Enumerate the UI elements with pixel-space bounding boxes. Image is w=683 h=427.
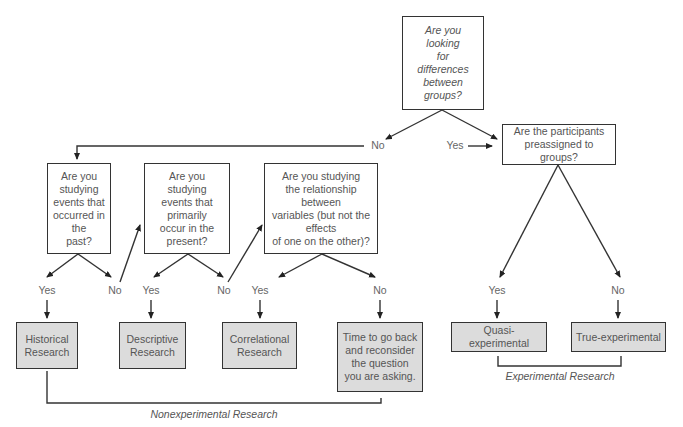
node-text: Historical Research	[25, 333, 70, 359]
edge-label-present-yes: Yes	[142, 284, 159, 296]
edge-label-preassigned-yes: Yes	[488, 284, 505, 296]
edge-label-past-no: No	[108, 284, 121, 296]
edge-label-relationship-no: No	[373, 284, 386, 296]
result-true-experimental: True-experimental	[571, 322, 666, 352]
result-historical-research: Historical Research	[16, 322, 78, 369]
node-text: Quasi-experimental	[456, 324, 542, 350]
node-text: Are you studying the relationship betwee…	[272, 170, 370, 248]
question-participants-preassigned: Are the participants preassigned to grou…	[502, 124, 616, 165]
node-text: Are the participants preassigned to grou…	[507, 125, 611, 164]
result-quasi-experimental: Quasi-experimental	[451, 322, 547, 352]
node-text: Are you studying events that occurred in…	[53, 170, 105, 248]
edge-label-present-no: No	[217, 284, 230, 296]
edge-label-past-yes: Yes	[38, 284, 55, 296]
group-label-experimental: Experimental Research	[505, 370, 614, 382]
node-text: Are you studying events that primarily o…	[160, 170, 214, 248]
group-label-nonexperimental: Nonexperimental Research	[150, 408, 277, 420]
node-text: Time to go back and reconsider the quest…	[343, 331, 417, 383]
question-events-present: Are you studying events that primarily o…	[144, 163, 230, 254]
node-text: Correlational Research	[230, 333, 290, 359]
edge-label-preassigned-no: No	[611, 284, 624, 296]
result-reconsider-question: Time to go back and reconsider the quest…	[337, 322, 423, 392]
node-text: Are you looking for differences between …	[417, 24, 468, 102]
question-events-past: Are you studying events that occurred in…	[47, 163, 111, 254]
result-correlational-research: Correlational Research	[222, 322, 297, 369]
node-text: True-experimental	[576, 331, 661, 344]
edge-label-differences-no: No	[371, 139, 384, 151]
node-text: Descriptive Research	[127, 333, 179, 359]
research-design-flowchart: Are you looking for differences between …	[0, 0, 683, 427]
question-relationship-between-variables: Are you studying the relationship betwee…	[264, 163, 378, 254]
edge-label-relationship-yes: Yes	[251, 284, 268, 296]
edge-label-differences-yes: Yes	[446, 139, 463, 151]
question-differences-between-groups: Are you looking for differences between …	[402, 16, 484, 110]
result-descriptive-research: Descriptive Research	[119, 322, 186, 369]
